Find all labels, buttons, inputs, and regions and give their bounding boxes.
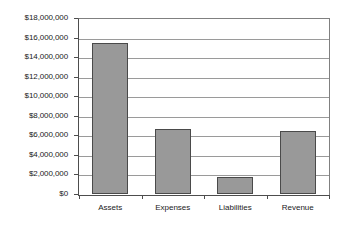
bar-slot [217,19,253,194]
x-axis-tick-label: Revenue [267,203,330,213]
x-axis-tick-mark [329,195,330,199]
x-axis-tick-label: Expenses [142,203,205,213]
x-axis-tick-label: Assets [79,203,142,213]
bar-slot [280,19,316,194]
y-axis-labels: $18,000,000 $16,000,000 $14,000,000 $12,… [0,0,74,229]
x-axis-tick-mark [267,195,268,199]
bar [155,129,191,195]
x-axis-labels: AssetsExpensesLiabilitiesRevenue [79,203,329,219]
y-axis-tick-label: $10,000,000 [25,92,68,100]
y-axis-tick-label: $18,000,000 [25,14,68,22]
bar [217,177,253,194]
y-axis-tick-label: $8,000,000 [29,112,68,120]
x-axis-tick-mark [79,195,80,199]
bar-chart: $18,000,000 $16,000,000 $14,000,000 $12,… [0,0,344,229]
y-axis-tick-label: $16,000,000 [25,34,68,42]
bar [280,131,316,194]
y-axis-tick-label: $6,000,000 [29,131,68,139]
y-axis-tick-label: $0 [59,190,68,198]
y-axis-tick-label: $12,000,000 [25,73,68,81]
bar-series [79,19,329,194]
y-axis-tick-label: $4,000,000 [29,151,68,159]
bar-slot [92,19,128,194]
x-axis-tick-mark [204,195,205,199]
bar [92,43,128,194]
y-axis-tick-label: $2,000,000 [29,170,68,178]
y-axis-tick-label: $14,000,000 [25,53,68,61]
x-axis-tick-mark [142,195,143,199]
x-axis-tick-label: Liabilities [204,203,267,213]
bar-slot [155,19,191,194]
